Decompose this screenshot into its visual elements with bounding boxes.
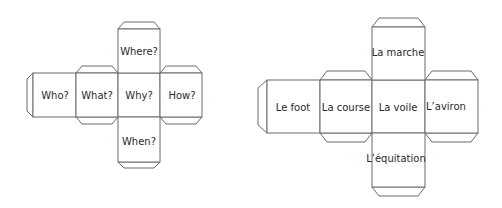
face-bottom-label: L’équitation — [366, 153, 426, 164]
face-right-label: L’aviron — [426, 101, 466, 112]
cube-nets-diagram: Where? Who? What? Why? How? When? La mar… — [0, 0, 502, 208]
glue-tab-aviron-bottom — [425, 133, 478, 142]
question-words-cube-net: Where? Who? What? Why? How? When? — [27, 22, 202, 168]
face-top-label: La marche — [372, 47, 425, 58]
face-top-label: Where? — [120, 46, 158, 57]
glue-tab-what-bottom — [76, 117, 118, 124]
glue-tab-aviron-top — [425, 71, 478, 80]
glue-tab-left — [27, 73, 33, 117]
face-center-label: La voile — [379, 102, 418, 113]
glue-tab-how-bottom — [160, 117, 202, 124]
face-left-label: La course — [322, 102, 370, 113]
face-right-label: How? — [168, 90, 195, 101]
glue-tab-how-top — [160, 66, 202, 73]
face-center-label: Why? — [125, 90, 152, 101]
glue-tab-course-bottom — [320, 133, 372, 142]
glue-tab-bottom — [372, 187, 425, 196]
face-left-label: What? — [81, 90, 113, 101]
face-far-left-label: Who? — [41, 90, 69, 101]
glue-tab-left — [258, 80, 267, 133]
glue-tab-top — [372, 18, 425, 27]
face-far-left-label: Le foot — [276, 102, 310, 113]
glue-tab-bottom — [118, 162, 160, 168]
face-bottom-label: When? — [122, 136, 156, 147]
glue-tab-what-top — [76, 66, 118, 73]
glue-tab-course-top — [320, 71, 372, 80]
french-sports-cube-net: La marche Le foot La course La voile L’a… — [258, 18, 478, 196]
glue-tab-top — [118, 22, 160, 29]
